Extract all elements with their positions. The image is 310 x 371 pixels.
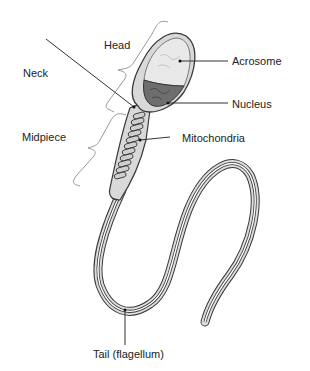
label-nucleus: Nucleus (232, 98, 272, 110)
sperm-diagram: Head Neck Midpiece Acrosome Nucleus Mito… (0, 0, 310, 371)
label-mitochondria: Mitochondria (182, 132, 245, 144)
label-head: Head (104, 39, 130, 51)
label-neck: Neck (23, 67, 48, 79)
label-tail: Tail (flagellum) (93, 348, 164, 360)
acrosome (144, 38, 190, 86)
label-midpiece: Midpiece (22, 131, 66, 143)
label-acrosome: Acrosome (232, 55, 282, 67)
